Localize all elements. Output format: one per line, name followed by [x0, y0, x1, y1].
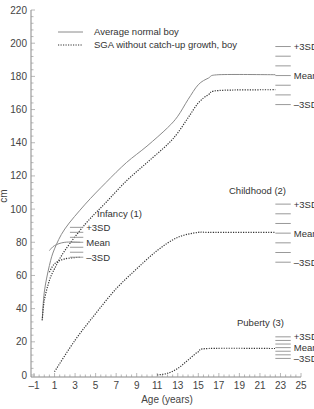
- sd-mean-label: Mean: [294, 342, 314, 353]
- y-tick-label: 120: [10, 170, 27, 181]
- x-tick-label: 21: [254, 380, 266, 391]
- legend: Average normal boy SGA without catch-up …: [58, 26, 237, 50]
- sd-mean-label: Mean: [294, 228, 314, 239]
- legend-sga-label: SGA without catch-up growth, boy: [94, 39, 237, 50]
- x-tick-label: 23: [275, 380, 287, 391]
- y-tick-label: 60: [16, 270, 28, 281]
- sd-minus3-label: –3SD: [86, 252, 110, 263]
- y-axis-title: cm: [0, 189, 9, 202]
- x-tick-label: 9: [134, 380, 140, 391]
- y-tick-label: 200: [10, 38, 27, 49]
- axes: 020406080100120140160180200220–113579111…: [10, 5, 307, 391]
- sd-plus3-label: +3SD: [294, 199, 314, 210]
- series-curve-3: [49, 257, 80, 272]
- y-tick-label: 100: [10, 204, 27, 215]
- sd-minus3-label: –3SD: [294, 99, 314, 110]
- x-tick-label: 19: [234, 380, 246, 391]
- y-tick-label: 140: [10, 137, 27, 148]
- x-tick-label: 15: [193, 380, 205, 391]
- y-tick-label: 20: [16, 336, 28, 347]
- x-tick-label: –1: [28, 380, 40, 391]
- series-curve-0: [42, 74, 275, 320]
- x-tick-label: 3: [72, 380, 78, 391]
- y-tick-label: 40: [16, 303, 28, 314]
- sd-minus3-label: –3SD: [294, 353, 314, 364]
- sd-mean-label: Mean: [294, 70, 314, 81]
- sd-mean-label: Mean: [86, 237, 110, 248]
- series-curve-5: [157, 348, 275, 375]
- x-tick-label: 7: [113, 380, 119, 391]
- infancy-label: Infancy (1): [97, 208, 142, 219]
- growth-chart: 020406080100120140160180200220–113579111…: [0, 0, 314, 409]
- y-tick-label: 220: [10, 5, 27, 16]
- x-tick-label: 17: [213, 380, 225, 391]
- x-axis-title: Age (years): [141, 394, 193, 405]
- sd-plus3-label: +3SD: [86, 222, 110, 233]
- legend-normal-label: Average normal boy: [94, 26, 179, 37]
- y-tick-label: 80: [16, 237, 28, 248]
- y-tick-label: 0: [21, 370, 27, 381]
- growth-curves: [42, 74, 275, 375]
- x-tick-label: 11: [152, 380, 163, 391]
- sd-minus3-label: –3SD: [294, 257, 314, 268]
- y-tick-label: 180: [10, 71, 27, 82]
- series-curve-1: [42, 90, 275, 321]
- childhood-label: Childhood (2): [229, 185, 286, 196]
- sd-plus3-label: +3SD: [294, 41, 314, 52]
- puberty-label: Puberty (3): [237, 317, 284, 328]
- x-tick-label: 1: [52, 380, 58, 391]
- x-tick-label: 5: [93, 380, 99, 391]
- x-tick-label: 25: [295, 380, 307, 391]
- x-tick-label: 13: [172, 380, 184, 391]
- y-tick-label: 160: [10, 104, 27, 115]
- sd-plus3-label: +3SD: [294, 331, 314, 342]
